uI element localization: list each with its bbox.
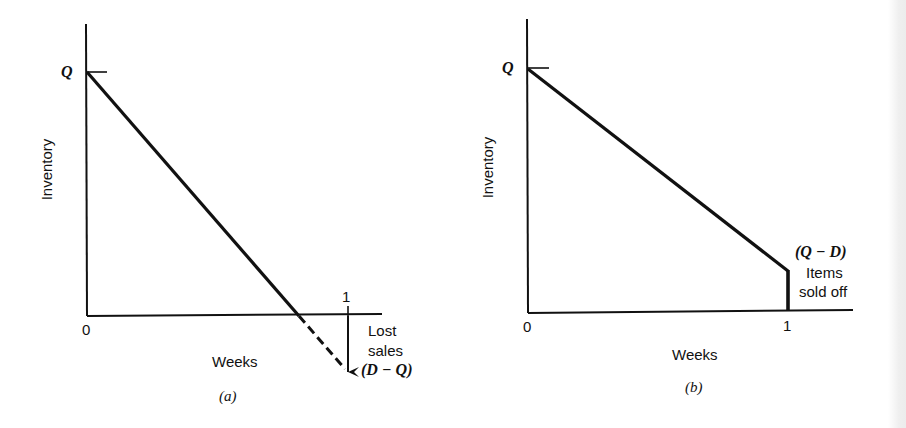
panel-a-x-origin-label: 0 bbox=[82, 322, 90, 337]
panel-a-shortage-dashed-line bbox=[299, 316, 345, 369]
panel-a-x-week1-label: 1 bbox=[342, 289, 350, 304]
panel-b-x-week1-label: 1 bbox=[783, 318, 791, 333]
panel-b-caption: (b) bbox=[685, 380, 703, 395]
panel-b-y-axis bbox=[527, 19, 528, 313]
panel-b-sold-off-label: sold off bbox=[799, 284, 847, 299]
panel-b-inventory-line bbox=[528, 69, 788, 271]
panel-b-y-axis-label: Inventory bbox=[480, 132, 495, 204]
inventory-diagrams bbox=[0, 0, 906, 428]
panel-a-sales-label: sales bbox=[368, 343, 403, 358]
panel-a bbox=[86, 24, 382, 372]
panel-b-x-axis bbox=[528, 310, 853, 313]
panel-a-lost-label: Lost bbox=[368, 323, 396, 338]
panel-b-items-label: Items bbox=[806, 265, 843, 280]
panel-a-y-axis-label: Inventory bbox=[39, 134, 54, 206]
panel-a-inventory-line bbox=[87, 72, 299, 316]
panel-a-x-axis-label: Weeks bbox=[212, 354, 258, 369]
panel-a-caption: (a) bbox=[219, 389, 237, 404]
panel-b-q-minus-d-label: (Q − D) bbox=[795, 244, 846, 260]
panel-a-q-label: Q bbox=[61, 64, 73, 80]
panel-b-q-label: Q bbox=[502, 60, 514, 76]
panel-b-x-axis-label: Weeks bbox=[672, 347, 718, 362]
panel-a-d-minus-q-label: (D − Q) bbox=[361, 362, 412, 378]
panel-a-y-axis bbox=[86, 24, 87, 316]
panel-b bbox=[527, 19, 853, 313]
panel-b-x-origin-label: 0 bbox=[523, 319, 531, 334]
panel-a-x-axis bbox=[87, 314, 382, 316]
